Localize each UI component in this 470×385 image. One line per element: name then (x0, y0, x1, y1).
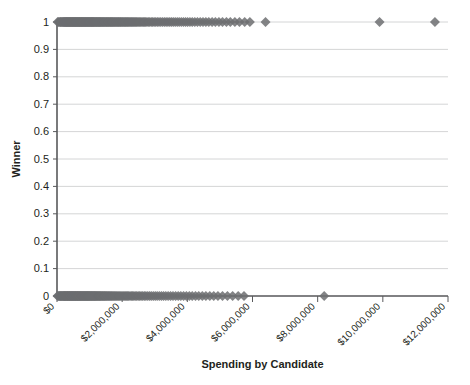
x-tick-label: $4,000,000 (144, 300, 187, 343)
y-tick-labels: 00.10.20.30.40.50.60.70.80.91 (34, 16, 49, 302)
y-tick-label: 0.4 (34, 180, 49, 192)
data-point (245, 17, 255, 27)
y-tick-label: 0.3 (34, 207, 49, 219)
x-axis-title-text: Spending by Candidate (201, 358, 323, 370)
y-axis-line (53, 22, 57, 296)
y-tick-label: 0.2 (34, 235, 49, 247)
y-tick-label: 0.6 (34, 125, 49, 137)
y-tick-label: 0 (43, 290, 49, 302)
x-tick-label: $8,000,000 (274, 300, 317, 343)
chart-canvas: 00.10.20.30.40.50.60.70.80.91 $0$2,000,0… (0, 0, 470, 385)
data-point (239, 291, 249, 301)
data-point (261, 17, 271, 27)
x-tick-label: $12,000,000 (400, 300, 447, 347)
x-tick-label: $6,000,000 (209, 300, 252, 343)
y-tick-label: 0.1 (34, 262, 49, 274)
x-tick-label: $2,000,000 (78, 300, 121, 343)
y-tick-label: 0.9 (34, 43, 49, 55)
grid-lines (57, 22, 448, 296)
y-tick-label: 0.8 (34, 70, 49, 82)
x-tick-label: $10,000,000 (335, 300, 382, 347)
y-tick-label: 0.5 (34, 153, 49, 165)
data-point (319, 291, 329, 301)
x-axis-title: Spending by Candidate (201, 358, 323, 370)
data-point (375, 17, 385, 27)
x-tick-label: $0 (41, 300, 57, 316)
y-axis-title-text: Winner (10, 140, 22, 178)
data-point (430, 17, 440, 27)
y-tick-label: 1 (43, 16, 49, 28)
scatter-chart: 00.10.20.30.40.50.60.70.80.91 $0$2,000,0… (0, 0, 470, 385)
y-axis-title: Winner (10, 140, 22, 178)
x-tick-labels: $0$2,000,000$4,000,000$6,000,000$8,000,0… (41, 300, 448, 347)
y-tick-label: 0.7 (34, 98, 49, 110)
